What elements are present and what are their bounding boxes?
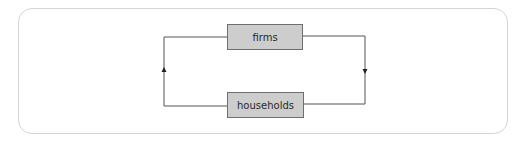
arrow-up-icon: [162, 67, 167, 72]
edge-firms-to-households: [303, 36, 365, 104]
flow-connectors: [0, 0, 527, 141]
node-households: households: [227, 92, 304, 118]
node-label: households: [237, 100, 294, 111]
node-firms: firms: [227, 24, 303, 50]
arrow-down-icon: [363, 69, 368, 74]
edge-households-to-firms: [164, 37, 227, 106]
node-label: firms: [252, 32, 277, 43]
